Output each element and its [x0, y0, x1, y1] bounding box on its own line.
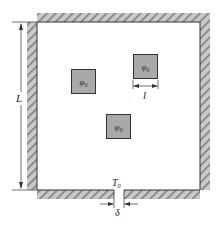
gap-label: δ [115, 208, 120, 218]
heat-source-label: φ₀ [141, 62, 149, 72]
length-label: L [16, 93, 22, 104]
bottom-wall-right [124, 190, 200, 199]
top-wall [37, 13, 210, 22]
heat-source-label: φ₀ [79, 77, 87, 87]
right-wall [200, 22, 210, 190]
heat-source-1: φ₀ [71, 69, 96, 94]
square-size-label: l [143, 90, 146, 101]
domain-boundary [37, 22, 200, 190]
diagram-canvas [0, 0, 224, 225]
heat-source-label: φ₀ [114, 122, 122, 132]
heat-source-3: φ₀ [106, 114, 131, 139]
temperature-label: T₀ [112, 178, 121, 188]
left-wall [27, 22, 37, 190]
heat-source-2: φ₀ [133, 54, 158, 79]
bottom-wall-left [37, 190, 114, 199]
